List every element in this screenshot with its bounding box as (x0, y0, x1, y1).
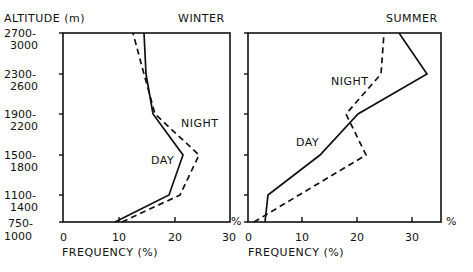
pct-mark: % (231, 215, 241, 228)
svg-text:3000: 3000 (10, 39, 38, 52)
svg-text:750-: 750- (8, 217, 33, 230)
summer-x-tick-30: 30 (405, 231, 419, 244)
svg-text:2600: 2600 (10, 80, 38, 93)
summer-day-label: DAY (296, 136, 319, 149)
chart-canvas: ALTITUDE (m) WINTER SUMMER 2700- 3000 23… (0, 0, 473, 272)
svg-text:1800: 1800 (10, 161, 38, 174)
summer-x-tick-10: 10 (295, 231, 309, 244)
summer-title: SUMMER (386, 12, 438, 25)
winter-day-line (115, 33, 183, 222)
winter-day-label: DAY (151, 154, 174, 167)
summer-night-line (254, 33, 384, 222)
y-tick-labels: 2700- 3000 2300- 2600 1900- 2200 1500- 1… (4, 27, 38, 243)
winter-night-label: NIGHT (181, 117, 219, 130)
winter-panel: NIGHT DAY (59, 33, 230, 222)
pct-mark-summer: % (446, 215, 456, 228)
winter-x-tick-10: 10 (112, 231, 126, 244)
summer-x-tick-0: 0 (245, 231, 252, 244)
winter-title: WINTER (178, 12, 225, 25)
winter-x-axis-title: FREQUENCY (%) (62, 246, 158, 259)
summer-x-axis-title: FREQUENCY (%) (248, 246, 344, 259)
winter-x-tick-30: 30 (222, 231, 236, 244)
winter-x-tick-0: 0 (60, 231, 67, 244)
summer-panel: NIGHT DAY (244, 33, 441, 222)
summer-day-line (265, 33, 427, 222)
svg-text:1000: 1000 (4, 230, 32, 243)
summer-night-label: NIGHT (331, 75, 369, 88)
svg-text:1400: 1400 (10, 201, 38, 214)
y-axis-title: ALTITUDE (m) (4, 12, 85, 25)
summer-x-tick-20: 20 (350, 231, 364, 244)
winter-x-tick-20: 20 (168, 231, 182, 244)
svg-text:2200: 2200 (10, 120, 38, 133)
